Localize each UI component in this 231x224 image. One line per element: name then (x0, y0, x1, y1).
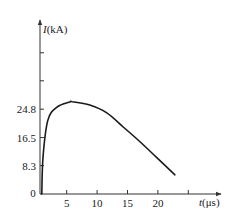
x-tick-label: 20 (152, 197, 164, 209)
current-waveform-line (42, 101, 175, 194)
chart: 8.316.524.8 5101520 0 I(kA) t(μs) (0, 0, 231, 224)
y-axis-label: I(kA) (42, 23, 68, 36)
x-axis-ticks: 5101520 (64, 190, 188, 209)
x-axis-unit: (μs) (202, 196, 220, 209)
x-axis-label: t(μs) (199, 196, 220, 209)
x-tick-label: 5 (64, 197, 70, 209)
y-tick-label: 24.8 (17, 103, 37, 115)
y-axis-unit: (kA) (47, 23, 68, 36)
x-tick-label: 10 (92, 197, 104, 209)
origin-label: 0 (30, 187, 36, 199)
y-tick-label: 16.5 (17, 132, 37, 144)
x-tick-label: 15 (122, 197, 134, 209)
y-tick-label: 8.3 (22, 160, 36, 172)
